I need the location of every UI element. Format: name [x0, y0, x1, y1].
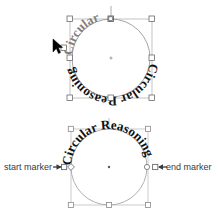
start-marker-square[interactable] — [62, 164, 67, 169]
bottom-object-group[interactable]: Circular Reasoning start marker — [4, 117, 212, 208]
handle-top-right[interactable] — [149, 16, 154, 21]
handle-top-right[interactable] — [145, 126, 150, 131]
canvas-stage: Circular Circular Reasoning — [0, 0, 220, 221]
handle-middle-left[interactable] — [67, 55, 72, 60]
handle-middle-right[interactable] — [149, 55, 154, 60]
object-center-dot — [108, 166, 110, 168]
handle-top-left[interactable] — [68, 126, 73, 131]
handle-bottom-left[interactable] — [68, 202, 73, 207]
end-marker-annotation: end marker — [158, 162, 212, 172]
start-marker-arrow-head — [57, 164, 62, 170]
handle-bottom-center[interactable] — [106, 202, 111, 207]
top-curved-text-lower[interactable]: Circular Reasoning — [61, 62, 161, 109]
handle-top-left[interactable] — [67, 16, 72, 21]
vector-canvas[interactable]: Circular Circular Reasoning — [0, 0, 220, 221]
bottom-curved-text[interactable]: Circular Reasoning — [59, 117, 158, 167]
object-center-dot — [110, 57, 112, 59]
handle-bottom-center[interactable] — [108, 95, 113, 100]
end-marker-group[interactable] — [144, 164, 157, 169]
start-marker-annotation: start marker — [4, 162, 62, 172]
handle-bottom-left[interactable] — [67, 95, 72, 100]
end-marker-circle[interactable] — [144, 164, 149, 169]
end-marker-arrow-head — [158, 164, 163, 170]
start-marker-label: start marker — [4, 162, 52, 172]
top-object-group[interactable]: Circular Circular Reasoning — [60, 6, 162, 109]
handle-bottom-right[interactable] — [149, 95, 154, 100]
end-marker-square[interactable] — [153, 164, 158, 169]
end-marker-label: end marker — [166, 162, 212, 172]
handle-bottom-right[interactable] — [145, 202, 150, 207]
